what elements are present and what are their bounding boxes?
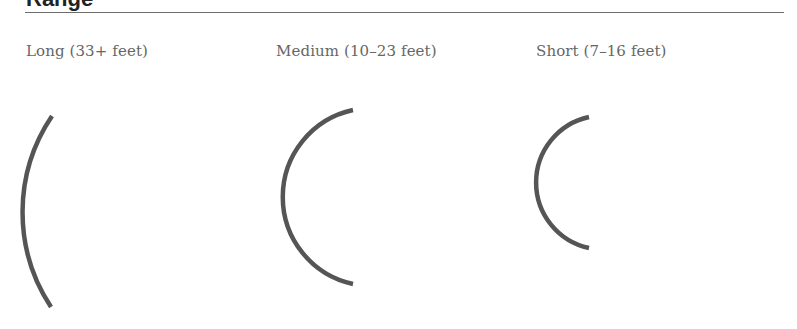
arc-medium-range xyxy=(283,110,353,284)
arc-short-range xyxy=(536,117,589,248)
range-arcs xyxy=(0,0,797,329)
arc-long-range xyxy=(23,116,52,307)
